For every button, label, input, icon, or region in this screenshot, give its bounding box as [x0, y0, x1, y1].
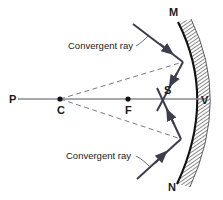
- incident-ray-lower-arrow: [155, 155, 163, 163]
- label-point-F: F: [125, 104, 132, 116]
- leader-line-top: [136, 36, 148, 46]
- point-marker-focus: [125, 96, 130, 101]
- label-point-S: S: [164, 84, 171, 96]
- optics-diagram: P C F S V M N Convergent ray Convergent …: [0, 0, 223, 200]
- annotation-convergent-ray-bottom: Convergent ray: [66, 150, 131, 161]
- reflected-ray-upper-arrow: [172, 73, 177, 82]
- label-point-C: C: [57, 104, 65, 116]
- incident-ray-upper-arrow: [160, 44, 169, 51]
- reflected-ray-lower-arrow: [169, 114, 174, 124]
- optics-diagram-canvas: P C F S V M N Convergent ray Convergent …: [0, 0, 223, 200]
- construction-line-lower: [60, 99, 181, 139]
- label-mirror-end-N: N: [168, 181, 176, 193]
- point-marker-centre-of-curvature: [57, 96, 62, 101]
- leader-line-bottom: [136, 156, 150, 167]
- annotation-convergent-ray-top: Convergent ray: [68, 40, 133, 51]
- label-point-P: P: [9, 93, 16, 105]
- label-mirror-end-M: M: [169, 6, 178, 18]
- label-point-V: V: [201, 94, 209, 106]
